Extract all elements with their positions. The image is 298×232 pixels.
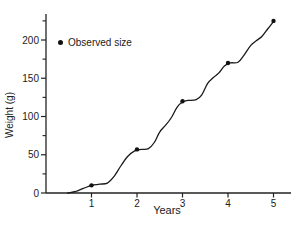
growth-chart-figure: 05010015020012345 Weight (g) Years Obser… (0, 0, 298, 232)
y-tick-label: 200 (22, 35, 39, 46)
observed-point (271, 19, 275, 23)
x-axis-title: Years (117, 204, 217, 216)
y-tick-label: 100 (22, 111, 39, 122)
legend-marker-dot-icon (58, 40, 63, 45)
x-tick-label: 4 (225, 198, 231, 209)
x-tick-label: 1 (89, 198, 95, 209)
observed-point (135, 147, 139, 151)
plot-svg: 05010015020012345 (0, 0, 298, 232)
y-tick-label: 150 (22, 73, 39, 84)
observed-point (89, 183, 93, 187)
legend: Observed size (58, 37, 132, 48)
y-axis-title: Weight (g) (4, 65, 16, 165)
y-tick-label: 0 (33, 188, 39, 199)
x-tick-label: 5 (271, 198, 277, 209)
legend-label: Observed size (68, 37, 132, 48)
y-tick-label: 50 (28, 149, 40, 160)
observed-point (226, 61, 230, 65)
observed-point (180, 99, 184, 103)
